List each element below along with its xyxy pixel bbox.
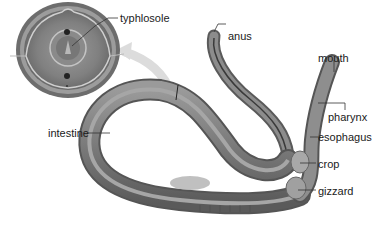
worm-body (89, 36, 332, 212)
label-esophagus: esophagus (318, 131, 372, 143)
label-gizzard: gizzard (318, 185, 353, 197)
label-mouth: mouth (318, 52, 349, 64)
label-typhlosole: typhlosole (120, 12, 170, 24)
earthworm-diagram: typhlosole anus mouth pharynx esophagus … (0, 0, 380, 231)
label-anus: anus (228, 30, 252, 42)
cross-section-inset (10, 2, 124, 98)
label-intestine: intestine (48, 127, 89, 139)
label-crop: crop (318, 158, 339, 170)
label-pharynx: pharynx (328, 111, 367, 123)
